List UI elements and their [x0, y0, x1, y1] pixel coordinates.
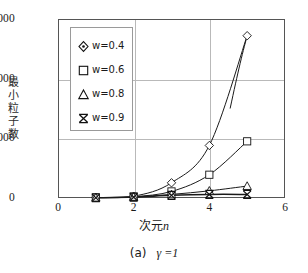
- legend-label: w=0.6: [92, 64, 124, 75]
- legend-label: w=0.4: [92, 40, 124, 51]
- x-tick-6: 6: [270, 201, 300, 213]
- y-tick-label: 3000: [0, 13, 15, 25]
- x-tick-label: 4: [206, 201, 212, 213]
- caption-index: (a): [130, 246, 147, 260]
- y-tick-3000: 3000: [0, 19, 15, 31]
- y-axis-label-char: 小: [6, 89, 20, 102]
- caption-parameter: γ =1: [146, 246, 178, 260]
- legend-box: w=0.4 w=0.6 w=0.8 w=0.9: [70, 27, 133, 131]
- cross-marker-icon: [77, 111, 90, 124]
- x-tick-0: 0: [43, 201, 73, 213]
- x-axis-label-text: 次元: [139, 219, 163, 233]
- triangle-marker-icon: [77, 87, 90, 100]
- gridline-x-2: [135, 20, 136, 197]
- x-axis-label-var: n: [163, 219, 169, 233]
- x-axis-label: 次元n: [0, 216, 308, 234]
- figure-caption: (a)γ =1: [0, 246, 308, 261]
- figure-chart-minimum-particle-count: 3000 2000 1000 0 0 2 4 6 最 小 粒 子 数 次元n (…: [0, 0, 308, 273]
- y-tick-0: 0: [0, 198, 15, 210]
- x-tick-label: 2: [131, 201, 137, 213]
- y-axis-label-char: 数: [6, 128, 20, 141]
- legend-item-w04[interactable]: w=0.4: [77, 33, 132, 57]
- y-axis-label-char: 子: [6, 115, 20, 128]
- x-tick-label: 6: [282, 201, 288, 213]
- y-axis-label-char: 最: [6, 76, 20, 89]
- legend-label: w=0.8: [92, 88, 124, 99]
- legend-label: w=0.9: [92, 112, 124, 123]
- x-tick-label: 0: [55, 201, 61, 213]
- legend-item-w08[interactable]: w=0.8: [77, 81, 132, 105]
- y-tick-label: 0: [9, 192, 15, 204]
- y-axis-label-char: 粒: [6, 102, 20, 115]
- x-tick-2: 2: [119, 201, 149, 213]
- y-axis-label: 最 小 粒 子 数: [6, 76, 20, 141]
- square-marker-icon: [77, 63, 90, 76]
- x-tick-4: 4: [194, 201, 224, 213]
- legend-item-w06[interactable]: w=0.6: [77, 57, 132, 81]
- legend-item-w09[interactable]: w=0.9: [77, 105, 132, 129]
- diamond-marker-icon: [77, 39, 90, 52]
- gridline-x-4: [210, 20, 211, 197]
- gridline-y-1000: [59, 139, 284, 140]
